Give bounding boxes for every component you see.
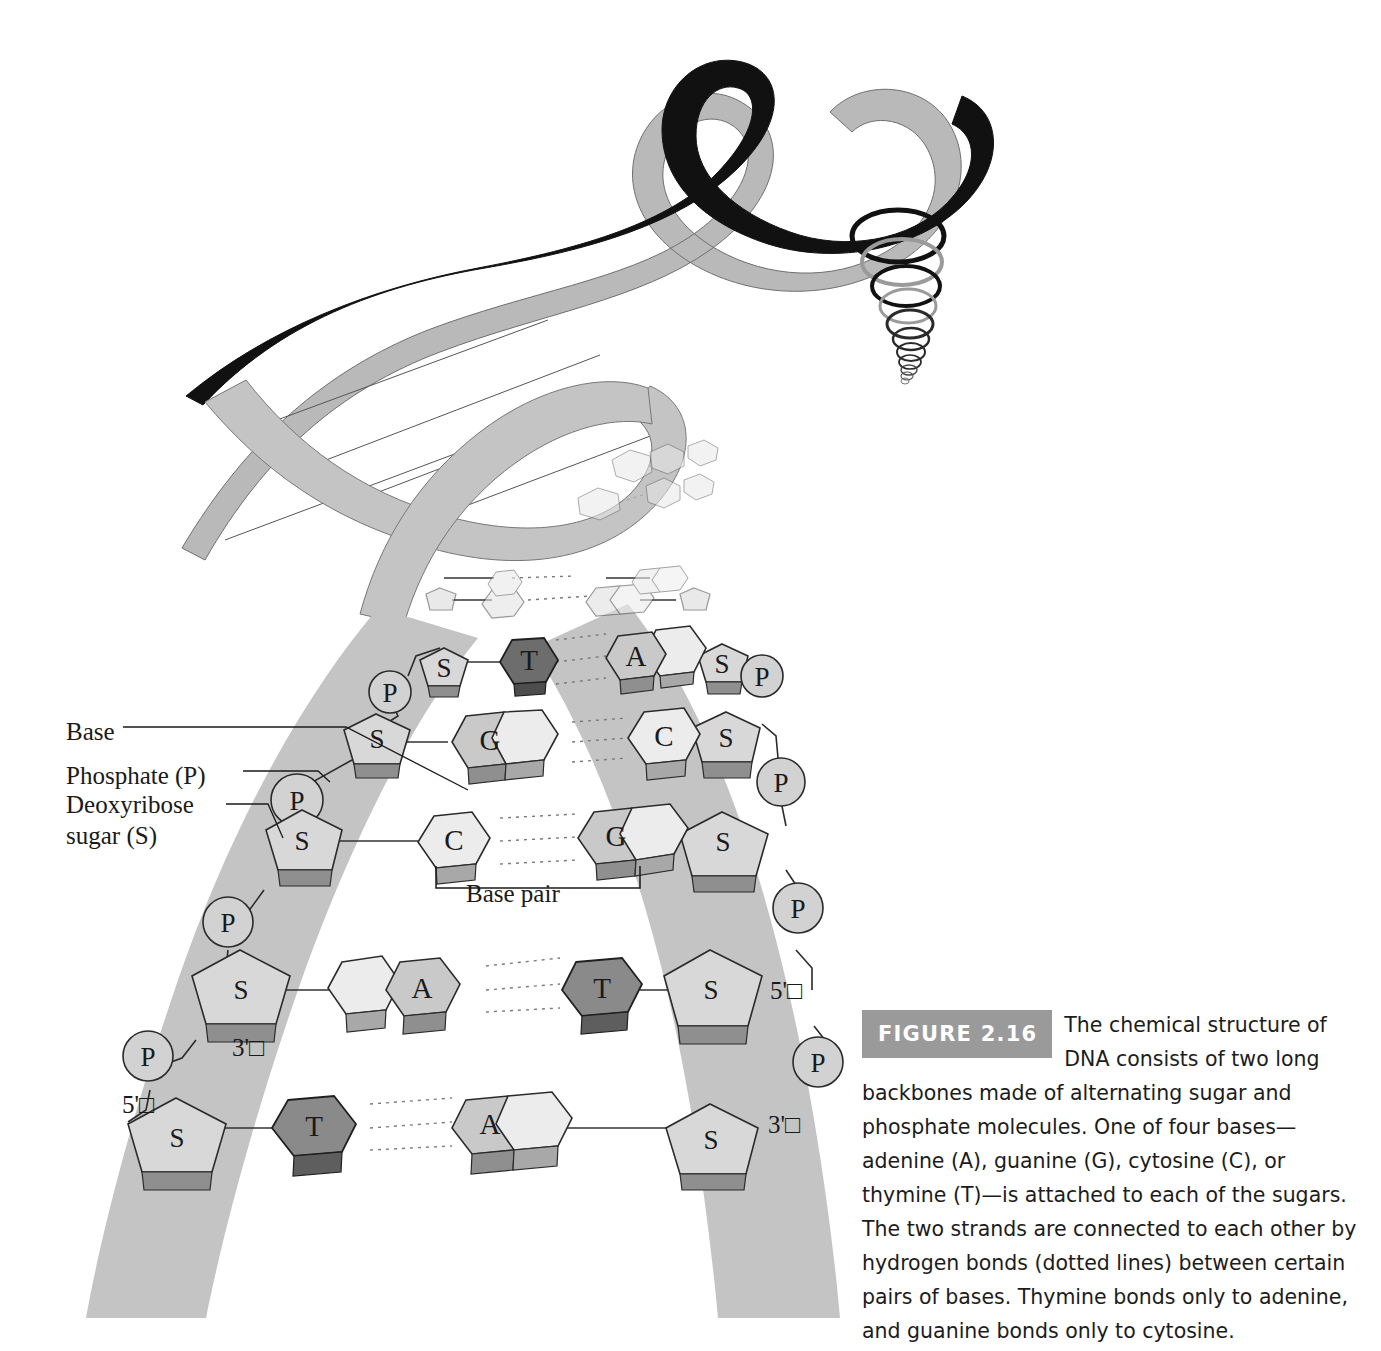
phosphate-label: P — [754, 662, 769, 692]
base-letter: C — [444, 824, 463, 856]
base-letter: T — [305, 1110, 323, 1142]
phosphate-label: P — [773, 768, 788, 798]
base-letter: T — [520, 644, 538, 676]
phosphate-label: P — [382, 678, 397, 708]
label-base-pair: Base pair — [466, 880, 560, 908]
label-phosphate: Phosphate (P) — [66, 760, 206, 791]
base-letter: A — [626, 640, 647, 672]
sugar-label: S — [436, 653, 451, 683]
sugar-label: S — [169, 1123, 184, 1153]
phosphate-label: P — [790, 894, 805, 924]
phosphate-unit: P — [203, 897, 253, 947]
sugar-label: S — [703, 1125, 718, 1155]
base-hexagon-A: A — [452, 1092, 572, 1174]
base-letter: A — [480, 1108, 501, 1140]
faint-small-bases — [426, 566, 710, 618]
base-hexagon-C: C — [418, 812, 490, 884]
label-deoxyribose-sugar: Deoxyribose sugar (S) — [66, 789, 194, 851]
phosphate-unit: P — [741, 655, 783, 697]
sugar-label: S — [703, 975, 718, 1005]
phosphate-label: P — [810, 1048, 825, 1078]
end-label-right-lower: 3'□ — [768, 1111, 801, 1138]
base-letter: A — [412, 972, 433, 1004]
base-letter: C — [654, 720, 673, 752]
phosphate-unit: P — [773, 883, 823, 933]
end-label-left-upper: 3'□ — [232, 1034, 265, 1061]
phosphate-unit: P — [793, 1037, 843, 1087]
sugar-label: S — [715, 827, 730, 857]
dna-figure: P S S P S P — [0, 0, 1381, 1351]
base-letter: G — [606, 820, 627, 852]
base-hexagon-T: T — [272, 1096, 356, 1176]
base-hexagon-G: G — [452, 710, 558, 784]
base-pair-row: A T — [328, 956, 642, 1034]
phosphate-unit: P — [123, 1031, 173, 1081]
sugar-label: S — [369, 724, 384, 754]
base-hexagon-A: A — [328, 956, 460, 1034]
end-label-left-lower: 5'□ — [122, 1091, 155, 1118]
base-hexagon-G: G — [578, 804, 688, 880]
sugar-label: S — [233, 975, 248, 1005]
phosphate-unit: P — [757, 758, 805, 806]
phosphate-unit: P — [369, 671, 411, 713]
figure-number-badge: FIGURE 2.16 — [862, 1010, 1052, 1058]
sugar-unit: S — [692, 712, 760, 778]
sugar-label: S — [718, 723, 733, 753]
base-hexagon-T: T — [500, 638, 558, 696]
base-letter: T — [593, 972, 611, 1004]
phosphate-label: P — [140, 1042, 155, 1072]
phosphate-label: P — [220, 908, 235, 938]
base-hexagon-T: T — [562, 958, 642, 1034]
end-label-right-upper: 5'□ — [770, 977, 803, 1004]
figure-caption-block: FIGURE 2.16 The chemical structure of DN… — [862, 1008, 1372, 1348]
sugar-label: S — [294, 826, 309, 856]
sugar-unit: S — [698, 644, 748, 694]
base-pair-row: C G — [418, 804, 688, 884]
figure-caption-text: The chemical structure of DNA consists o… — [862, 1008, 1372, 1348]
base-letter: G — [480, 724, 501, 756]
label-base: Base — [66, 716, 115, 747]
base-pair-row: T A — [272, 1092, 572, 1176]
sugar-label: S — [714, 649, 729, 679]
